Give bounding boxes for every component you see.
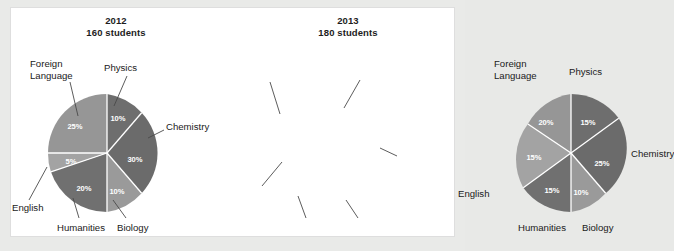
chart-title-year-2013: 2013 (232, 15, 464, 27)
label-humanities-2013: Humanities (518, 222, 566, 234)
chart-title-year-2012: 2012 (0, 15, 232, 27)
label-physics-2012: Physics (104, 62, 137, 74)
slice-percent-humanities-2013: 15% (544, 186, 559, 195)
label-foreign-language-line2-2013: Language (494, 70, 537, 81)
chart-title-students-2012: 160 students (0, 27, 232, 39)
slice-percent-foreign-language-2012: 25% (67, 122, 82, 131)
slice-percent-biology-2012: 10% (109, 187, 124, 196)
slice-percent-english-2012: 5% (66, 157, 77, 166)
slice-percent-physics-2013: 15% (580, 118, 595, 127)
pie-svg-2012: 10% 30% 10% 20% 5% 25% (46, 92, 168, 214)
pie-2012: 10% 30% 10% 20% 5% 25% (46, 92, 168, 214)
label-foreign-language-2013: Foreign Language (494, 58, 552, 81)
chart-title-2012: 2012 160 students (0, 15, 232, 39)
pie-2013: 15% 25% 10% 15% 15% 20% (510, 92, 632, 214)
label-physics-2013: Physics (569, 66, 602, 78)
slice-percent-physics-2012: 10% (110, 114, 125, 123)
slice-percent-english-2013: 15% (526, 153, 541, 162)
slice-percent-humanities-2012: 20% (76, 184, 91, 193)
label-foreign-language-line1-2012: Foreign (30, 58, 63, 69)
chart-title-students-2013: 180 students (232, 27, 464, 39)
label-biology-2013: Biology (582, 222, 613, 234)
label-chemistry-2013: Chemistry (631, 148, 674, 160)
label-foreign-language-2012: Foreign Language (30, 58, 88, 81)
pie-chart-panel-2012: 2012 160 students (0, 0, 232, 251)
slice-percent-foreign-language-2013: 20% (538, 118, 553, 127)
slice-percent-biology-2013: 10% (573, 188, 588, 197)
label-chemistry-2012: Chemistry (166, 121, 209, 133)
label-foreign-language-line1-2013: Foreign (494, 58, 527, 69)
slice-percent-chemistry-2013: 25% (594, 159, 609, 168)
slice-percent-chemistry-2012: 30% (127, 155, 142, 164)
chart-title-2013: 2013 180 students (232, 15, 464, 39)
label-foreign-language-line2-2012: Language (30, 70, 73, 81)
label-english-2012: English (12, 202, 43, 214)
pie-chart-panel-2013: 2013 180 students (232, 0, 464, 251)
label-humanities-2012: Humanities (57, 222, 105, 234)
label-biology-2012: Biology (117, 222, 148, 234)
pie-svg-2013: 15% 25% 10% 15% 15% 20% (510, 92, 632, 214)
label-english-2013: English (458, 188, 489, 200)
